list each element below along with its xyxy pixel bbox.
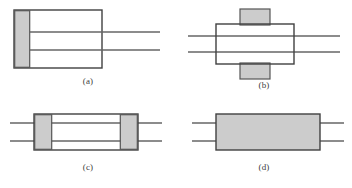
panel-a-caption: (a) <box>0 76 176 86</box>
panel-a-shaded-left-end <box>15 11 30 68</box>
panel-c-shaded-right-end <box>120 115 137 150</box>
panel-c-shaded-left-end <box>35 115 52 150</box>
panel-c-caption: (c) <box>0 162 176 172</box>
figure-container: (a) (b) (c) (d) <box>0 0 352 188</box>
panel-d-shaded-body <box>216 114 320 150</box>
panel-b-shaded-bottom <box>240 63 270 79</box>
panel-d: (d) <box>176 94 352 188</box>
panel-c: (c) <box>0 94 176 188</box>
panel-b-shaded-top <box>240 9 270 25</box>
panel-d-graphic <box>176 94 352 188</box>
panel-c-graphic <box>0 94 176 188</box>
panel-b: (b) <box>176 0 352 94</box>
panel-d-caption: (d) <box>176 162 352 172</box>
panel-b-caption: (b) <box>176 80 352 90</box>
panel-a: (a) <box>0 0 176 94</box>
panel-b-body-outline <box>216 24 294 64</box>
